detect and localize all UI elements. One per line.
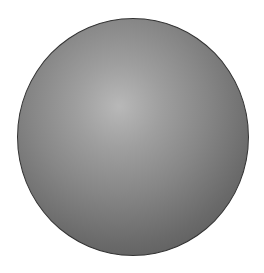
gray-sphere — [17, 18, 249, 256]
